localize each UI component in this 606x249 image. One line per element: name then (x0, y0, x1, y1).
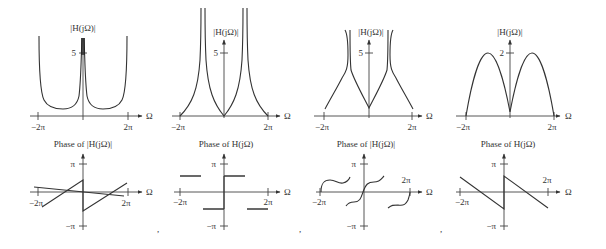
filter-response-figure: |H(jΩ)| 5 −2π 2π Ω Phase of |H(jΩ)| π −π… (0, 0, 606, 249)
tick-label-negpi: −π (486, 221, 496, 231)
tick-label-neg2pi: −2π (312, 197, 327, 207)
tick-label-2pi: 2π (407, 122, 417, 132)
tick-label-2pi: 2π (263, 197, 273, 207)
magnitude-title: |H(jΩ)| (70, 23, 95, 33)
tick-label-pi: π (351, 159, 356, 169)
tick-label-negpi: −π (346, 221, 356, 231)
phase-curve (180, 176, 268, 209)
panel-4: |H(jΩ)| 2 −2π 2π Ω Phase of H(jΩ) π −π −… (455, 27, 572, 231)
tick-label-2pi: 2π (547, 122, 557, 132)
tick-label-neg2pi: −2π (315, 122, 330, 132)
panel-1-magnitude-plot: |H(jΩ)| 5 −2π 2π Ω (30, 23, 153, 132)
panel-1-phase-plot: Phase of |H(jΩ)| π −π −2π 2π Ω (29, 139, 153, 231)
tick-label-neg2pi: −2π (31, 122, 46, 132)
x-axis-label: Ω (146, 111, 153, 121)
x-axis-label: Ω (146, 187, 153, 197)
tick-label-5: 5 (359, 48, 364, 58)
separator-comma: , (440, 224, 442, 234)
panel-4-magnitude-plot: |H(jΩ)| 2 −2π 2π Ω (456, 27, 572, 132)
tick-label-pi: π (70, 159, 75, 169)
x-axis-label: Ω (426, 111, 433, 121)
phase-flat-line (34, 187, 124, 196)
panel-3-phase-plot: Phase of |H(jΩ)| π −π −2π 2π Ω (312, 139, 433, 231)
tick-label-neg2pi: −2π (171, 122, 186, 132)
phase-curve (460, 176, 548, 209)
panel-3-magnitude-plot: |H(jΩ)| 5 −2π 2π Ω (314, 27, 433, 132)
phase-title: Phase of H(jΩ) (199, 139, 254, 149)
tick-label-negpi: −π (206, 221, 216, 231)
tick-label-2: 2 (500, 48, 505, 58)
phase-title: Phase of H(jΩ) (481, 139, 536, 149)
panel-1: |H(jΩ)| 5 −2π 2π Ω Phase of |H(jΩ)| π −π… (29, 23, 153, 231)
magnitude-title: |H(jΩ)| (358, 27, 383, 37)
tick-label-negpi: −π (65, 221, 75, 231)
tick-label-neg2pi: −2π (455, 197, 470, 207)
x-axis-label: Ω (284, 187, 291, 197)
magnitude-title: |H(jΩ)| (213, 27, 238, 37)
panel-4-phase-plot: Phase of H(jΩ) π −π −2π 2π Ω (455, 139, 572, 231)
phase-title: Phase of |H(jΩ)| (54, 139, 112, 149)
x-axis-label: Ω (284, 111, 291, 121)
tick-label-2pi: 2π (123, 122, 133, 132)
x-axis-label: Ω (426, 187, 433, 197)
tick-label-neg2pi: −2π (456, 122, 471, 132)
tick-label-2pi: 2π (401, 175, 411, 185)
tick-label-2pi: 2π (121, 198, 131, 208)
panel-2-phase-plot: Phase of H(jΩ) π −π −2π 2π Ω (173, 139, 291, 231)
tick-label-pi: π (211, 159, 216, 169)
tick-label-neg2pi: −2π (29, 198, 44, 208)
separator-comma: , (157, 224, 159, 234)
panel-3: |H(jΩ)| 5 −2π 2π Ω Phase of |H(jΩ)| π −π… (312, 27, 433, 231)
panel-2-magnitude-plot: |H(jΩ)| 5 −2π 2π Ω (171, 8, 291, 132)
x-axis-label: Ω (565, 187, 572, 197)
magnitude-title: |H(jΩ)| (497, 27, 522, 37)
separator-comma: , (299, 224, 301, 234)
tick-label-2pi: 2π (263, 122, 273, 132)
tick-label-5: 5 (72, 48, 77, 58)
tick-label-2pi: 2π (542, 175, 552, 185)
x-axis-label: Ω (565, 111, 572, 121)
tick-label-pi: π (491, 159, 496, 169)
tick-label-5: 5 (214, 48, 219, 58)
phase-title: Phase of |H(jΩ)| (337, 139, 395, 149)
tick-label-neg2pi: −2π (173, 197, 188, 207)
panel-2: |H(jΩ)| 5 −2π 2π Ω Phase of H(jΩ) π −π −… (171, 8, 291, 231)
